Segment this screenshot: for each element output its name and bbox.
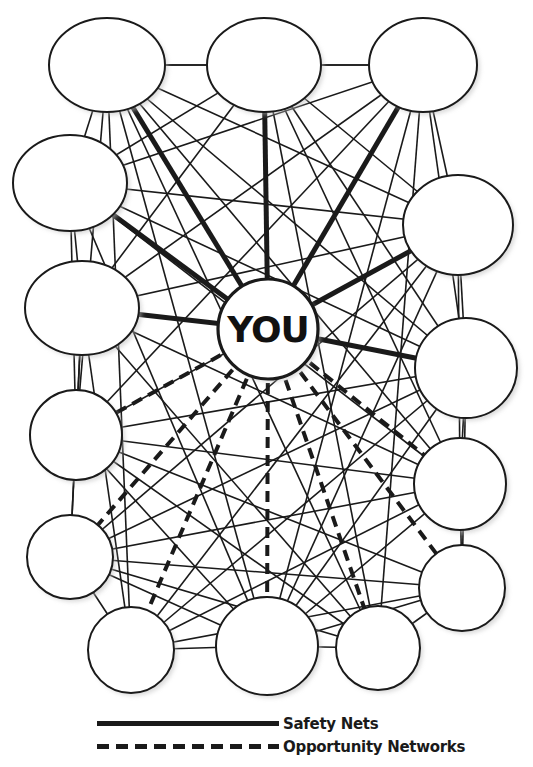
node-ellipse bbox=[25, 261, 139, 355]
node-ellipse bbox=[88, 607, 174, 693]
legend-label-safety-nets: Safety Nets bbox=[283, 715, 378, 733]
node-ellipse bbox=[415, 318, 517, 418]
node-b1 bbox=[88, 607, 177, 696]
node-r3 bbox=[414, 438, 509, 533]
node-l3 bbox=[30, 390, 125, 483]
edge-l4-r3 bbox=[70, 484, 460, 557]
node-ellipse bbox=[403, 175, 513, 275]
node-ellipse bbox=[27, 515, 113, 599]
node-ellipse bbox=[419, 545, 505, 631]
node-ellipse bbox=[414, 438, 506, 530]
node-t1 bbox=[49, 18, 168, 115]
node-r4 bbox=[419, 545, 508, 634]
center-node-group: YOU bbox=[218, 279, 321, 382]
legend-item-safety-nets: Safety Nets bbox=[97, 712, 533, 735]
node-b3 bbox=[336, 606, 423, 693]
node-ellipse bbox=[336, 606, 420, 690]
node-ellipse bbox=[207, 18, 321, 112]
dashed-line-swatch-icon bbox=[97, 744, 279, 749]
solid-line-swatch-icon bbox=[97, 721, 279, 726]
node-r2 bbox=[415, 318, 520, 421]
network-diagram: YOU bbox=[0, 0, 533, 767]
node-ellipse bbox=[369, 18, 477, 112]
node-ellipse bbox=[216, 597, 318, 695]
legend: Safety Nets Opportunity Networks bbox=[97, 712, 533, 758]
center-node-label: YOU bbox=[226, 309, 309, 350]
node-ellipse bbox=[30, 390, 122, 480]
node-l1 bbox=[13, 135, 130, 234]
node-t3 bbox=[369, 18, 480, 115]
node-ellipse bbox=[49, 18, 165, 112]
legend-label-opportunity-networks: Opportunity Networks bbox=[283, 738, 465, 756]
node-t2 bbox=[207, 18, 324, 115]
legend-item-opportunity-networks: Opportunity Networks bbox=[97, 735, 533, 758]
node-b2 bbox=[216, 597, 321, 698]
node-l2 bbox=[25, 261, 142, 358]
node-ellipse bbox=[13, 135, 127, 231]
node-r1 bbox=[403, 175, 516, 278]
edge-t2-r3 bbox=[264, 65, 460, 484]
